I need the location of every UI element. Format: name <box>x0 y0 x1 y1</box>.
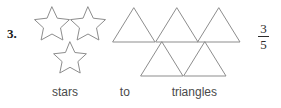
fraction-denominator: 5 <box>260 38 267 51</box>
triangles-shape-group <box>112 6 242 78</box>
triangle-icon-4 <box>141 42 183 76</box>
stars-shape-group <box>33 4 111 78</box>
caption-left-noun: stars <box>52 86 78 98</box>
star-icon-1 <box>35 7 70 40</box>
worksheet-problem: 3. stars to triangles 3 5 <box>0 0 281 108</box>
caption-right-noun: triangles <box>172 86 217 98</box>
caption-row: stars to triangles <box>52 86 217 98</box>
star-icon-2 <box>71 7 106 40</box>
triangle-icon-2 <box>156 8 198 42</box>
triangle-icon-1 <box>113 8 155 42</box>
star-icon-3 <box>54 42 87 73</box>
caption-connector: to <box>120 86 130 98</box>
problem-number: 3. <box>7 27 17 40</box>
triangle-icon-3 <box>198 8 240 42</box>
triangle-icon-5 <box>184 42 226 76</box>
fraction-numerator: 3 <box>260 22 267 35</box>
answer-fraction: 3 5 <box>258 22 269 51</box>
